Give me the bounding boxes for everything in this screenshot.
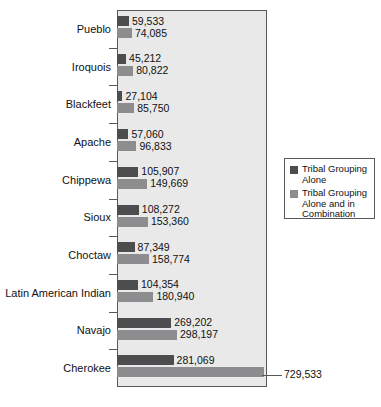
category-label: Latin American Indian <box>0 287 111 299</box>
category-label: Iroquois <box>0 61 111 73</box>
axis-tick <box>109 161 117 162</box>
axis-tick <box>109 85 117 86</box>
callout-value-label: 729,533 <box>284 369 322 380</box>
axis-tick <box>109 199 117 200</box>
bar-row: 104,354180,940 <box>117 274 267 312</box>
value-label-alone: 108,272 <box>142 204 180 214</box>
value-label-combination: 149,669 <box>150 178 188 188</box>
axis-tick <box>109 312 117 313</box>
bar-alone <box>117 129 128 139</box>
bar-combination <box>117 66 133 76</box>
legend-label-alone: Tribal Grouping Alone <box>302 164 370 185</box>
bar-rows: 59,53374,08545,21280,82227,10485,75057,0… <box>117 10 267 387</box>
bar-combination <box>117 141 136 151</box>
category-axis-labels: PuebloIroquoisBlackfeetApacheChippewaSio… <box>0 10 111 387</box>
category-label: Sioux <box>0 211 111 223</box>
bar-combination <box>117 103 134 113</box>
category-label: Navajo <box>0 324 111 336</box>
category-label: Pueblo <box>0 23 111 35</box>
value-label-alone: 269,202 <box>174 317 212 327</box>
value-label-alone: 105,907 <box>141 166 179 176</box>
bar-row: 281,069 <box>117 349 267 387</box>
legend-item-alone: Tribal Grouping Alone <box>290 164 370 185</box>
category-label: Apache <box>0 136 111 148</box>
legend-swatch-combination <box>290 190 298 198</box>
bar-row: 57,06096,833 <box>117 123 267 161</box>
bar-combination <box>117 254 149 264</box>
bar-alone <box>117 205 139 215</box>
value-label-alone: 57,060 <box>131 129 163 139</box>
bar-alone <box>117 280 138 290</box>
legend-label-combination: Tribal Grouping Alone and in Combination <box>302 188 370 220</box>
value-label-combination: 158,774 <box>152 254 190 264</box>
bar-row: 59,53374,085 <box>117 10 267 48</box>
bar-row: 105,907149,669 <box>117 161 267 199</box>
bar-chart: PuebloIroquoisBlackfeetApacheChippewaSio… <box>0 0 381 407</box>
value-label-alone: 45,212 <box>129 53 161 63</box>
category-label: Blackfeet <box>0 98 111 110</box>
value-label-combination: 298,197 <box>180 329 218 339</box>
bar-combination <box>117 292 153 302</box>
bar-row: 269,202298,197 <box>117 312 267 350</box>
value-label-alone: 27,104 <box>125 91 157 101</box>
value-label-alone: 87,349 <box>138 242 170 252</box>
bar-row: 87,349158,774 <box>117 236 267 274</box>
bar-row: 108,272153,360 <box>117 199 267 237</box>
value-label-combination: 153,360 <box>151 216 189 226</box>
bar-row: 45,21280,822 <box>117 48 267 86</box>
value-label-combination: 180,940 <box>156 291 194 301</box>
value-label-alone: 281,069 <box>177 355 215 365</box>
bar-combination <box>117 217 148 227</box>
bar-alone <box>117 318 171 328</box>
bar-combination <box>117 179 147 189</box>
value-label-alone: 59,533 <box>132 16 164 26</box>
bar-combination <box>117 28 132 38</box>
axis-tick <box>109 236 117 237</box>
value-label-combination: 85,750 <box>137 103 169 113</box>
axis-tick <box>109 349 117 350</box>
legend-item-combination: Tribal Grouping Alone and in Combination <box>290 188 370 220</box>
bar-combination <box>117 367 264 377</box>
callout-leader-line <box>262 375 282 376</box>
category-label: Cherokee <box>0 362 111 374</box>
bar-combination <box>117 330 177 340</box>
bar-alone <box>117 16 129 26</box>
bar-alone <box>117 54 126 64</box>
value-label-alone: 104,354 <box>141 279 179 289</box>
category-label: Chippewa <box>0 174 111 186</box>
legend-swatch-alone <box>290 166 298 174</box>
value-label-combination: 74,085 <box>135 28 167 38</box>
bar-alone <box>117 242 135 252</box>
value-label-combination: 96,833 <box>139 141 171 151</box>
bar-alone <box>117 355 174 365</box>
bar-row: 27,10485,750 <box>117 85 267 123</box>
category-label: Choctaw <box>0 249 111 261</box>
axis-tick <box>109 123 117 124</box>
axis-tick <box>109 274 117 275</box>
bar-alone <box>117 167 138 177</box>
value-label-combination: 80,822 <box>136 65 168 75</box>
axis-tick <box>109 48 117 49</box>
legend: Tribal Grouping Alone Tribal Grouping Al… <box>284 158 375 219</box>
bar-alone <box>117 91 122 101</box>
